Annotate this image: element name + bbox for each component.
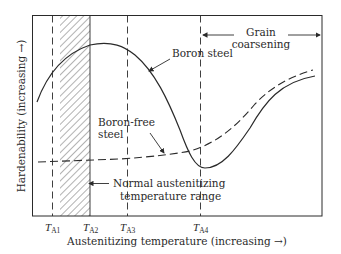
boron-steel-arrow xyxy=(149,59,170,71)
normal-range-label-line1: Normal austenitizing xyxy=(113,177,226,189)
normal-range-label-line2: temperature range xyxy=(120,190,221,202)
x-tick-labels: TA1 TA2 TA3 TA4 xyxy=(45,221,209,235)
grain-coarsening-label-line2: coarsening xyxy=(232,38,291,50)
normal-austenitizing-range-hatch xyxy=(60,16,90,217)
y-axis-label: Hardenability (increasing →) xyxy=(15,40,27,193)
boron-free-arrow xyxy=(150,133,164,153)
boron-free-label-line1: Boron-free xyxy=(98,116,155,128)
hardenability-diagram: Boron steel Boron-free steel Grain coars… xyxy=(0,0,341,254)
tick-ta1: TA1 xyxy=(45,221,61,235)
grain-coarsening-label-line1: Grain xyxy=(246,26,276,38)
boron-steel-label: Boron steel xyxy=(172,47,234,59)
x-axis-label: Austenitizing temperature (increasing →) xyxy=(66,235,287,247)
tick-ta3: TA3 xyxy=(120,221,136,235)
boron-free-label-line2: steel xyxy=(98,128,124,140)
tick-ta4: TA4 xyxy=(193,221,209,235)
tick-ta2: TA2 xyxy=(83,221,99,235)
